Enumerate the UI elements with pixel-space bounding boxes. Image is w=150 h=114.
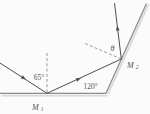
ray-m1-to-m2-arrowhead-icon: [76, 76, 82, 82]
outgoing-ray-arrowhead-icon: [115, 25, 119, 30]
mirror2-label-sub: 2: [136, 64, 139, 70]
mirror-m1-surface: [0, 93, 108, 95]
mirror1-label-sub: 1: [41, 106, 44, 112]
mirror2-label-base: M: [126, 61, 135, 70]
diagram-canvas: 65° 120° θ M 1 M 2: [0, 0, 150, 114]
mirrors-angle-label: 120°: [83, 82, 97, 91]
mirror1-label: M 1: [31, 103, 44, 113]
outgoing-ray: [115, 3, 122, 59]
theta-label: θ: [111, 44, 115, 53]
normal-at-m2-dashed-line: [84, 43, 121, 59]
mirror2-label: M 2: [126, 61, 139, 71]
incidence-angle-label: 65°: [34, 73, 45, 82]
two-mirror-reflection-diagram: 65° 120° θ M 1 M 2: [0, 0, 150, 114]
mirror1-label-base: M: [31, 103, 40, 112]
